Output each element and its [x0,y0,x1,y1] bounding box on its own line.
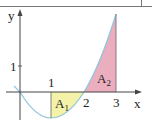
region-label-a2: A2 [97,72,111,88]
a1-letter: A [55,96,64,111]
tick-label-x2: 2 [83,96,90,109]
y-axis-arrow-icon [18,9,23,16]
tick-label-y1: 1 [10,60,17,73]
plot-canvas [0,0,152,125]
region-label-a1: A1 [55,97,69,113]
a2-letter: A [97,71,106,86]
tick-label-x3: 3 [113,96,120,109]
a2-subscript: 2 [106,78,111,88]
y-axis-label: y [8,9,15,22]
a1-subscript: 1 [64,103,69,113]
x-axis-label: x [134,97,141,110]
tick-label-x1: 1 [48,76,55,89]
x-axis-arrow-icon [135,90,142,95]
